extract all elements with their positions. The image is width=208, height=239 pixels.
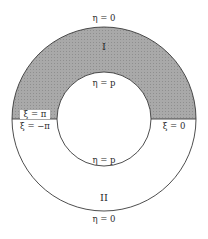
label-outer-top: η = 0	[92, 13, 115, 23]
label-outer-bottom: η = 0	[92, 214, 115, 224]
label-inner-top: η = p	[92, 78, 116, 88]
label-region-I: I	[102, 41, 106, 52]
label-cut-left-lower: ξ = −π	[20, 121, 50, 131]
diagram-canvas: η = 0 I η = p ξ = π ξ = −π ξ = 0 η = p I…	[0, 0, 208, 239]
label-region-II: II	[100, 192, 108, 203]
label-cut-right: ξ = 0	[163, 121, 186, 131]
label-inner-bottom: η = p	[92, 155, 116, 165]
annulus-diagram: η = 0 I η = p ξ = π ξ = −π ξ = 0 η = p I…	[0, 0, 208, 239]
label-cut-left-upper: ξ = π	[24, 109, 47, 119]
